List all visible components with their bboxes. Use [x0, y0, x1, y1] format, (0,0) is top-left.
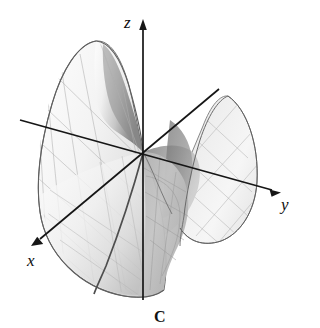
axis-label-x: x	[27, 252, 35, 269]
surface-plot-figure: z y x C	[0, 0, 320, 328]
surface-plot-canvas	[0, 0, 320, 328]
axis-label-z: z	[124, 14, 131, 31]
surface-mesh	[38, 41, 258, 297]
axis-label-y: y	[281, 196, 289, 213]
figure-caption: C	[0, 308, 320, 326]
